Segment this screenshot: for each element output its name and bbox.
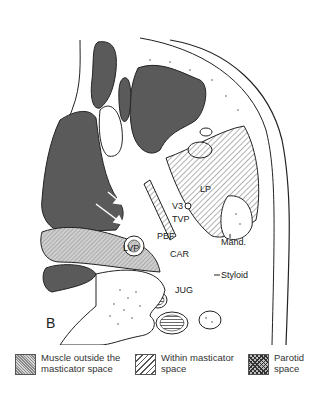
- dark-region-upper-left: [91, 42, 116, 108]
- small-hatched-oval: [188, 142, 212, 158]
- legend-item-parotid: Parotid space: [248, 352, 304, 375]
- legend-text-line2: space: [274, 363, 304, 374]
- small-white-oval: [200, 128, 212, 136]
- anatomical-diagram: LP V3 TVP LVP PBF CAR JUG Mand. Styloid …: [0, 0, 319, 345]
- hatch-swatch-icon: [135, 354, 156, 375]
- label-tvp: TVP: [172, 214, 190, 224]
- crosshatch-swatch-icon: [248, 354, 269, 375]
- legend: Muscle outside the masticator space With…: [0, 352, 319, 392]
- stipple-swatch-icon: [15, 354, 36, 375]
- legend-text-line1: Muscle outside the: [41, 352, 120, 363]
- styloid-outline: [199, 311, 221, 329]
- legend-text-line2: space: [161, 363, 234, 374]
- legend-text-line2: masticator space: [41, 363, 120, 374]
- legend-text-line1: Parotid: [274, 352, 304, 363]
- label-styloid: Styloid: [221, 270, 248, 280]
- label-lp: LP: [200, 184, 211, 194]
- dark-region-small: [119, 78, 131, 122]
- label-lvp: LVP: [123, 243, 139, 253]
- dark-region-center: [130, 65, 206, 153]
- label-v3: V3: [172, 201, 183, 211]
- label-pbf: PBF: [157, 231, 175, 241]
- legend-item-within-masticator: Within masticator space: [135, 352, 234, 375]
- nasal-pocket: [99, 106, 122, 156]
- label-mand: Mand.: [221, 237, 246, 247]
- label-car: CAR: [170, 249, 190, 259]
- legend-text-line1: Within masticator: [161, 352, 234, 363]
- label-jug: JUG: [175, 285, 193, 295]
- legend-item-muscle-outside: Muscle outside the masticator space: [15, 352, 120, 375]
- panel-label: B: [46, 315, 55, 331]
- dark-region-lower-left: [43, 265, 96, 292]
- jugular-inner: [160, 315, 184, 331]
- v3-oval: [185, 203, 191, 209]
